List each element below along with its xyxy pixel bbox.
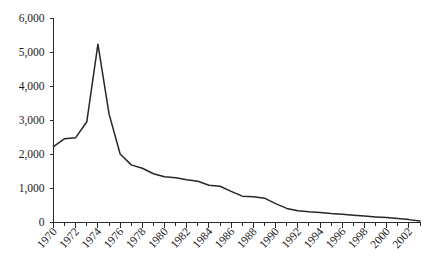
- x-axis-tick-label: 1996: [323, 225, 347, 250]
- x-axis-tick-label: 1970: [35, 225, 59, 250]
- x-axis-tick-label: 1976: [101, 225, 125, 250]
- x-axis-tick-label: 1990: [257, 225, 281, 250]
- x-axis-tick-label: 1982: [168, 225, 192, 250]
- y-axis-tick-label: 6,000: [19, 12, 45, 25]
- x-axis-tick-label: 1998: [346, 225, 370, 250]
- x-axis-tick-labels: 1970197219741976197819801982198419861988…: [35, 225, 415, 250]
- y-axis-tick-label: 4,000: [19, 80, 45, 93]
- y-axis-tick-label: 0: [39, 216, 45, 228]
- x-axis-tick-label: 2002: [390, 225, 414, 250]
- y-axis-tick-labels: 01,0002,0003,0004,0005,0006,000: [19, 12, 45, 228]
- x-axis-tick-label: 1984: [190, 225, 214, 250]
- x-axis-tick-label: 1992: [279, 225, 303, 250]
- y-axis-tick-label: 1,000: [19, 182, 45, 195]
- y-axis-tick-label: 2,000: [19, 148, 45, 161]
- x-axis-tick-label: 1980: [146, 225, 170, 250]
- data-series-line: [54, 44, 421, 221]
- x-axis-tick-label: 1974: [79, 225, 103, 250]
- x-axis-tick-label: 2000: [368, 225, 392, 250]
- x-axis-tick-label: 1978: [124, 225, 148, 250]
- x-axis-tick-label: 1994: [301, 225, 325, 250]
- y-axis-tick-label: 3,000: [19, 114, 45, 127]
- y-axis-tick-label: 5,000: [19, 46, 45, 59]
- x-axis-tick-label: 1972: [57, 225, 81, 250]
- chart-container: 01,0002,0003,0004,0005,0006,000 19701972…: [0, 0, 440, 269]
- x-axis-tick-label: 1986: [212, 225, 236, 250]
- y-axis-tick-marks: [50, 19, 54, 223]
- line-chart: 01,0002,0003,0004,0005,0006,000 19701972…: [0, 0, 440, 269]
- x-axis-tick-label: 1988: [235, 225, 259, 250]
